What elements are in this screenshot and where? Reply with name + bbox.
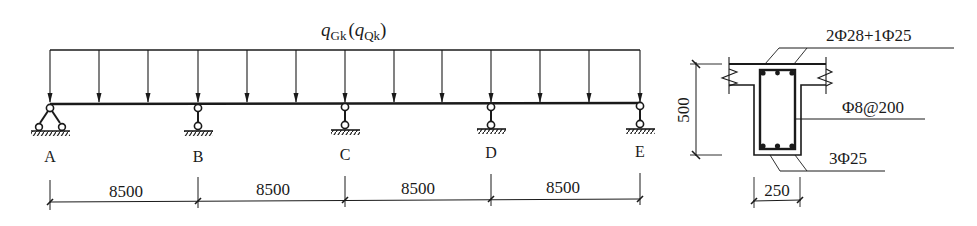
load-symbol-q-alt: q bbox=[355, 19, 365, 40]
pin-strut-icon bbox=[52, 111, 60, 123]
bottom-rebar-label: 3Φ25 bbox=[829, 149, 867, 168]
bottom-rebar-icon bbox=[760, 143, 765, 148]
ground-hatch-icon bbox=[626, 129, 655, 134]
support-label-a: A bbox=[44, 148, 56, 165]
hinge-icon bbox=[636, 120, 643, 127]
stirrup-icon bbox=[760, 70, 795, 149]
load-subscript-gk: Gk bbox=[331, 28, 347, 43]
leader-line bbox=[794, 48, 807, 64]
hinge-icon bbox=[194, 122, 201, 129]
hinge-icon bbox=[487, 103, 494, 110]
hinge-icon bbox=[46, 104, 53, 111]
hinge-icon bbox=[341, 121, 348, 128]
span-dimensions: 8500 8500 8500 8500 bbox=[47, 173, 643, 210]
ground-hatch-icon bbox=[477, 129, 506, 134]
support-e: E bbox=[626, 102, 655, 160]
arrowhead-icon bbox=[587, 93, 592, 103]
arrowhead-icon bbox=[97, 93, 102, 103]
top-rebar-icon bbox=[789, 70, 794, 75]
support-b: B bbox=[184, 104, 213, 165]
arrowhead-icon bbox=[245, 93, 250, 103]
drawing-canvas: qGk(qQk) A B C D bbox=[0, 0, 977, 226]
ground-hatch-icon bbox=[331, 130, 360, 135]
arrowhead-icon bbox=[48, 93, 53, 103]
span-cd-length: 8500 bbox=[401, 179, 435, 198]
arrowhead-icon bbox=[343, 93, 348, 103]
height-dimension-label: 500 bbox=[674, 97, 693, 123]
span-bc-length: 8500 bbox=[256, 180, 290, 199]
stirrup-label: Φ8@200 bbox=[842, 98, 904, 117]
span-de-length: 8500 bbox=[546, 178, 580, 197]
support-label-e: E bbox=[635, 143, 645, 160]
load-arrows bbox=[48, 50, 643, 103]
leader-line bbox=[795, 155, 807, 171]
support-a: A bbox=[31, 104, 70, 165]
top-rebar-icon bbox=[775, 71, 780, 76]
distributed-load: qGk(qQk) bbox=[48, 19, 643, 103]
bottom-rebar-icon bbox=[775, 143, 780, 148]
arrowhead-icon bbox=[489, 93, 494, 103]
pin-strut-icon bbox=[40, 111, 48, 123]
ground-hatch-icon bbox=[31, 131, 70, 136]
support-label-d: D bbox=[485, 144, 497, 161]
arrowhead-icon bbox=[294, 93, 299, 103]
hinge-icon bbox=[487, 121, 494, 128]
hinge-icon bbox=[36, 124, 43, 131]
leader-line bbox=[770, 155, 780, 171]
support-label-c: C bbox=[340, 146, 351, 163]
bottom-rebar-icon bbox=[789, 143, 794, 148]
width-dimension-line bbox=[753, 200, 801, 201]
arrowhead-icon bbox=[196, 93, 201, 103]
width-dimension-label: 250 bbox=[764, 181, 790, 200]
hinge-icon bbox=[194, 104, 201, 111]
top-rebar-icon bbox=[760, 70, 765, 75]
break-line-right-icon bbox=[818, 69, 832, 86]
arrowhead-icon bbox=[392, 93, 397, 103]
span-ab-length: 8500 bbox=[109, 182, 143, 201]
hinge-icon bbox=[59, 124, 66, 131]
support-d: D bbox=[477, 103, 506, 161]
leader-line bbox=[765, 48, 779, 64]
load-subscript-qk: Qk bbox=[364, 28, 380, 43]
load-symbol-q: q bbox=[321, 19, 331, 40]
paren-close: ) bbox=[380, 19, 386, 41]
beam-cross-section: 2Φ28+1Φ25 Φ8@200 3Φ25 500 250 bbox=[674, 26, 954, 208]
arrowhead-icon bbox=[538, 93, 543, 103]
arrowhead-icon bbox=[146, 93, 151, 103]
arrowhead-icon bbox=[440, 93, 445, 103]
support-c: C bbox=[331, 103, 360, 163]
top-rebar-label: 2Φ28+1Φ25 bbox=[826, 26, 911, 45]
ground-hatch-icon bbox=[184, 131, 213, 136]
hinge-icon bbox=[341, 103, 348, 110]
load-label: qGk(qQk) bbox=[321, 19, 386, 43]
support-label-b: B bbox=[193, 148, 204, 165]
hinge-icon bbox=[636, 102, 643, 109]
arrowhead-icon bbox=[638, 93, 643, 103]
